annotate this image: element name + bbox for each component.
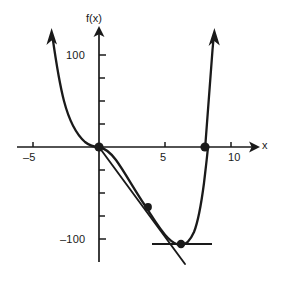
curve-left-arrowhead xyxy=(46,28,57,45)
y-axis-title: f(x) xyxy=(86,13,102,24)
x-tick-label-5: 5 xyxy=(160,152,166,163)
x-tick-label-neg5: –5 xyxy=(23,152,36,163)
y-tick-label-100: 100 xyxy=(66,50,85,61)
axis-lines xyxy=(17,28,258,262)
origin-point xyxy=(94,142,103,151)
root-point xyxy=(200,142,209,151)
curve-point xyxy=(144,203,152,211)
minimum-point xyxy=(177,240,185,248)
y-tick-label-neg100: –100 xyxy=(60,234,85,245)
graph-figure: –5 5 10 100 –100 x f(x) xyxy=(0,0,286,284)
marked-points xyxy=(94,142,209,248)
x-axis-title: x xyxy=(262,140,268,151)
curve-right-branch xyxy=(205,38,213,147)
graph-canvas xyxy=(0,0,286,284)
secant-line xyxy=(99,147,185,264)
x-tick-label-10: 10 xyxy=(228,152,241,163)
curve-main-branch xyxy=(99,147,208,245)
